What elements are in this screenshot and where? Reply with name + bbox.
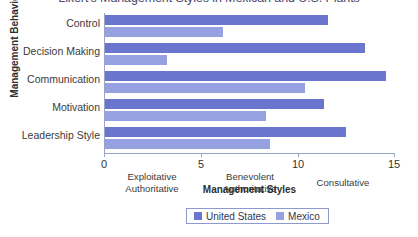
x-tick-5 <box>201 153 202 157</box>
bar-group-motivation: Motivation <box>105 97 395 125</box>
legend-item-united-states[interactable]: United States <box>194 211 266 222</box>
x-tick-10 <box>298 153 299 157</box>
bar-chart: Likert's Management Styles in Mexican an… <box>0 0 418 237</box>
x-tick-15 <box>394 153 395 157</box>
x-tick-label-5: 5 <box>181 158 221 170</box>
x-band-label-line-1: Exploitative <box>97 171 207 183</box>
x-axis-title: Management Styles <box>104 184 395 195</box>
legend-swatch-united-states <box>194 212 202 220</box>
bar-control-mexico[interactable] <box>105 27 223 37</box>
y-tick-label-leadership-style: Leadership Style <box>0 129 100 141</box>
bar-leadership-style-united-states[interactable] <box>105 127 346 137</box>
y-tick-label-decision-making: Decision Making <box>0 45 100 57</box>
y-tick-label-control: Control <box>0 17 100 29</box>
bar-decision-making-united-states[interactable] <box>105 43 365 53</box>
bar-leadership-style-mexico[interactable] <box>105 139 270 149</box>
bar-communication-mexico[interactable] <box>105 83 305 93</box>
bar-motivation-united-states[interactable] <box>105 99 324 109</box>
legend-swatch-mexico <box>276 212 284 220</box>
legend-item-mexico[interactable]: Mexico <box>276 211 320 222</box>
x-tick-0 <box>104 153 105 157</box>
plot-area: Control Decision Making Communication Mo… <box>104 13 395 153</box>
legend-label-united-states: United States <box>206 211 266 222</box>
x-tick-label-15: 15 <box>374 158 414 170</box>
legend: United States Mexico <box>186 208 329 224</box>
bar-communication-united-states[interactable] <box>105 71 386 81</box>
bar-group-leadership-style: Leadership Style <box>105 125 395 153</box>
bar-motivation-mexico[interactable] <box>105 111 266 121</box>
bar-group-control: Control <box>105 13 395 41</box>
bar-control-united-states[interactable] <box>105 15 328 25</box>
x-tick-label-0: 0 <box>84 158 124 170</box>
bar-group-decision-making: Decision Making <box>105 41 395 69</box>
bar-decision-making-mexico[interactable] <box>105 55 167 65</box>
legend-label-mexico: Mexico <box>288 211 320 222</box>
chart-title: Likert's Management Styles in Mexican an… <box>0 0 418 5</box>
y-tick-label-motivation: Motivation <box>0 101 100 113</box>
y-tick-label-communication: Communication <box>0 73 100 85</box>
x-axis-line <box>104 153 395 154</box>
x-tick-label-10: 10 <box>278 158 318 170</box>
bar-group-communication: Communication <box>105 69 395 97</box>
